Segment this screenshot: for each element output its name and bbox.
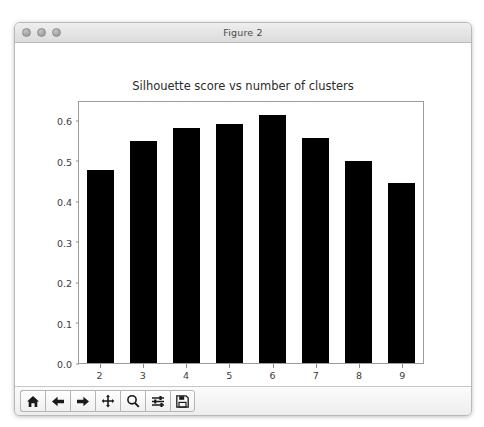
x-tick: 6: [251, 364, 294, 381]
x-tick-mark: [273, 364, 274, 368]
bar-slot: [165, 102, 208, 363]
back-arrow-icon[interactable]: [45, 390, 70, 412]
sliders-icon[interactable]: [145, 390, 170, 412]
x-tick: 8: [338, 364, 381, 381]
x-tick-label: 3: [140, 370, 146, 381]
x-tick-mark: [143, 364, 144, 368]
close-button[interactable]: [22, 28, 31, 37]
y-tick-mark: [76, 282, 80, 283]
x-tick: 4: [165, 364, 208, 381]
x-tick-mark: [186, 364, 187, 368]
x-tick-label: 7: [313, 370, 319, 381]
navigation-toolbar: [15, 386, 471, 415]
pan-move-icon[interactable]: [95, 390, 120, 412]
x-axis-ticks: 23456789: [78, 364, 424, 381]
y-tick-mark: [76, 323, 80, 324]
window-title: Figure 2: [15, 23, 471, 42]
y-tick: 0.0: [57, 354, 79, 373]
x-tick: 9: [381, 364, 424, 381]
bar: [173, 128, 200, 363]
y-tick-label: 0.0: [57, 359, 79, 370]
bar-series: [79, 102, 423, 363]
bar: [302, 138, 329, 363]
y-tick: 0.1: [57, 313, 79, 332]
y-tick-label: 0.1: [57, 318, 79, 329]
x-tick: 5: [208, 364, 251, 381]
y-tick-label: 0.3: [57, 237, 79, 248]
x-tick-mark: [402, 364, 403, 368]
y-tick-label: 0.2: [57, 278, 79, 289]
bar-slot: [380, 102, 423, 363]
x-tick: 3: [121, 364, 164, 381]
bar: [259, 115, 286, 363]
x-tick-mark: [316, 364, 317, 368]
x-tick-label: 2: [97, 370, 103, 381]
x-tick: 7: [294, 364, 337, 381]
chart-title: Silhouette score vs number of clusters: [15, 79, 471, 93]
figure-window: Figure 2 Silhouette score vs number of c…: [14, 22, 472, 416]
window-titlebar[interactable]: Figure 2: [15, 23, 471, 43]
bar-slot: [337, 102, 380, 363]
y-tick-label: 0.5: [57, 156, 79, 167]
floppy-disk-icon[interactable]: [170, 390, 195, 412]
y-tick: 0.6: [57, 111, 79, 130]
y-tick-mark: [76, 161, 80, 162]
zoom-button[interactable]: [52, 28, 61, 37]
plot-axes: 0.00.10.20.30.40.50.6: [78, 101, 424, 364]
x-tick: 2: [78, 364, 121, 381]
figure-canvas[interactable]: Silhouette score vs number of clusters 0…: [15, 43, 471, 386]
bar: [87, 170, 114, 363]
y-tick: 0.5: [57, 151, 79, 170]
magnifier-icon[interactable]: [120, 390, 145, 412]
bar-slot: [208, 102, 251, 363]
bar-slot: [251, 102, 294, 363]
y-tick-mark: [76, 201, 80, 202]
forward-arrow-icon[interactable]: [70, 390, 95, 412]
y-tick-mark: [76, 242, 80, 243]
x-tick-mark: [229, 364, 230, 368]
x-tick-mark: [100, 364, 101, 368]
y-tick: 0.3: [57, 232, 79, 251]
home-icon[interactable]: [20, 390, 45, 412]
x-tick-label: 8: [356, 370, 362, 381]
y-tick-label: 0.6: [57, 116, 79, 127]
x-tick-label: 5: [226, 370, 232, 381]
y-tick-label: 0.4: [57, 197, 79, 208]
minimize-button[interactable]: [37, 28, 46, 37]
x-tick-mark: [359, 364, 360, 368]
traffic-lights: [22, 23, 61, 42]
bar: [345, 161, 372, 363]
bar: [216, 124, 243, 363]
y-tick: 0.2: [57, 273, 79, 292]
x-tick-label: 4: [183, 370, 189, 381]
bar: [388, 183, 415, 363]
bar-slot: [122, 102, 165, 363]
bar-slot: [79, 102, 122, 363]
x-tick-label: 6: [270, 370, 276, 381]
y-tick: 0.4: [57, 192, 79, 211]
bar: [130, 141, 157, 363]
x-tick-label: 9: [399, 370, 405, 381]
y-tick-mark: [76, 120, 80, 121]
bar-slot: [294, 102, 337, 363]
